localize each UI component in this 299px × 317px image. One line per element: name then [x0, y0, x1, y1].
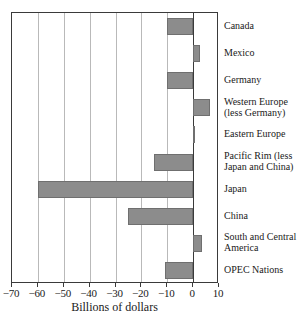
bar-rows	[12, 13, 217, 282]
bar	[193, 45, 199, 62]
category-label-line: Japan and China)	[224, 161, 299, 172]
bar-chart: −70−60−50−40−30−20−10010 Billions of dol…	[0, 0, 299, 317]
bar	[165, 262, 193, 279]
category-label: South and CentralAmerica	[224, 231, 299, 253]
bar	[193, 126, 195, 143]
bar-row	[12, 176, 217, 203]
bar-row	[12, 67, 217, 94]
bar-row	[12, 149, 217, 176]
bar-row	[12, 40, 217, 67]
category-label: Eastern Europe	[224, 128, 299, 139]
category-label-line: Western Europe	[224, 96, 299, 107]
category-label: China	[224, 210, 299, 221]
bar	[193, 99, 210, 116]
bar	[154, 154, 193, 171]
category-label: Pacific Rim (lessJapan and China)	[224, 150, 299, 172]
plot-area	[11, 12, 218, 283]
x-axis-title: Billions of dollars	[11, 300, 218, 315]
category-label: OPEC Nations	[224, 264, 299, 275]
category-label-line: South and Central	[224, 231, 299, 242]
category-label: Germany	[224, 74, 299, 85]
bar-row	[12, 257, 217, 284]
bar-row	[12, 13, 217, 40]
bar	[38, 181, 193, 198]
category-label-line: (less Germany)	[224, 107, 299, 118]
bar	[193, 235, 202, 252]
category-label-line: Pacific Rim (less	[224, 150, 299, 161]
category-label-line: Canada	[224, 20, 299, 31]
bar	[167, 72, 193, 89]
category-label-line: Japan	[224, 183, 299, 194]
bar-row	[12, 94, 217, 121]
bar	[128, 208, 193, 225]
bar-row	[12, 203, 217, 230]
category-labels: CanadaMexicoGermanyWestern Europe(less G…	[224, 12, 299, 283]
category-label: Western Europe(less Germany)	[224, 96, 299, 118]
category-label-line: Mexico	[224, 47, 299, 58]
category-label-line: America	[224, 242, 299, 253]
category-label-line: China	[224, 210, 299, 221]
category-label: Mexico	[224, 47, 299, 58]
category-label: Japan	[224, 183, 299, 194]
bar	[167, 18, 193, 35]
category-label-line: OPEC Nations	[224, 264, 299, 275]
bar-row	[12, 121, 217, 148]
category-label-line: Eastern Europe	[224, 128, 299, 139]
x-tick-label-10: 10	[198, 287, 238, 299]
category-label: Canada	[224, 20, 299, 31]
bar-row	[12, 230, 217, 257]
category-label-line: Germany	[224, 74, 299, 85]
